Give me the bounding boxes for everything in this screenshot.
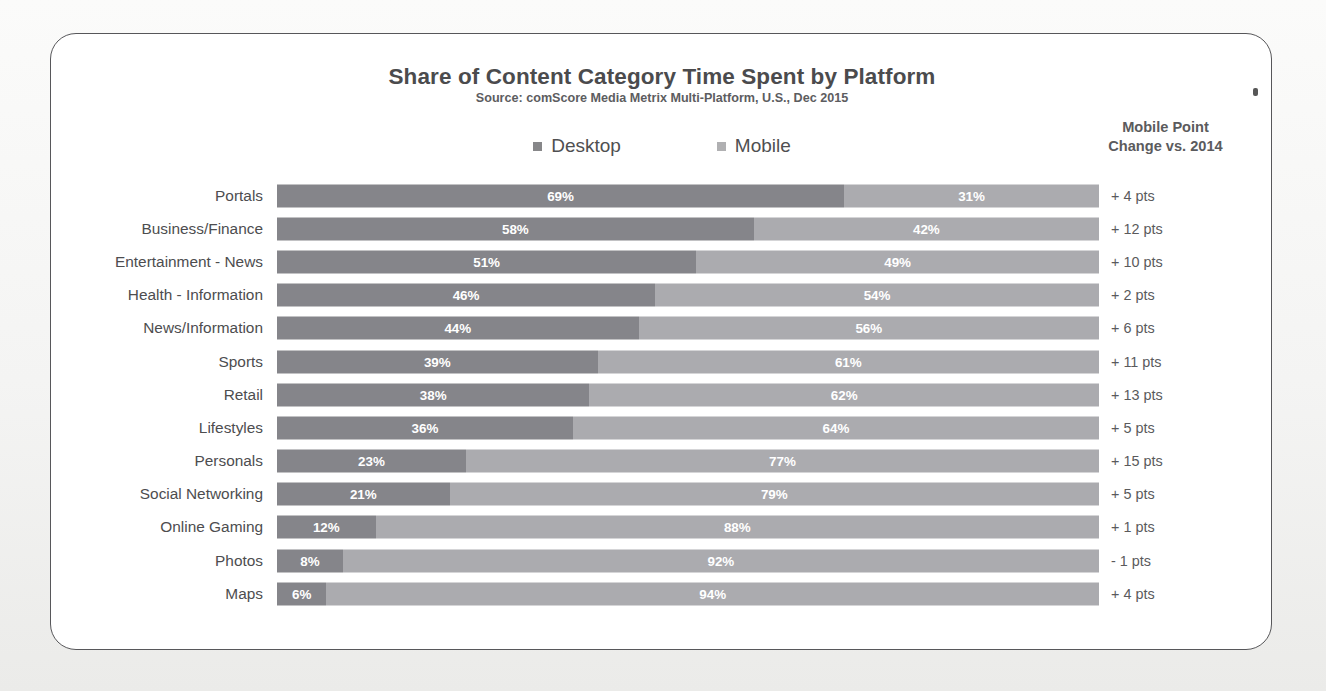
desktop-legend-swatch-icon bbox=[533, 142, 542, 151]
bar-value-label-desktop: 44% bbox=[444, 321, 471, 336]
chart-row: Portals69%31%+ 4 pts bbox=[51, 179, 1271, 212]
chart-card: Share of Content Category Time Spent by … bbox=[50, 33, 1272, 650]
bar-value-label-desktop: 46% bbox=[453, 288, 480, 303]
stacked-bar: 21%79% bbox=[277, 483, 1099, 506]
bar-segment-desktop: 69% bbox=[277, 184, 844, 207]
bar-segment-mobile: 49% bbox=[696, 250, 1099, 273]
category-label: Retail bbox=[51, 386, 263, 404]
page-title: Share of Content Category Time Spent by … bbox=[277, 64, 1047, 90]
stacked-bar: 46%54% bbox=[277, 284, 1099, 307]
mobile-point-change-value: + 12 pts bbox=[1111, 221, 1241, 237]
category-label: Health - Information bbox=[51, 286, 263, 304]
category-label: Business/Finance bbox=[51, 220, 263, 238]
mobile-point-change-value: + 2 pts bbox=[1111, 287, 1241, 303]
chart-row: Retail38%62%+ 13 pts bbox=[51, 378, 1271, 411]
bar-segment-desktop: 12% bbox=[277, 516, 376, 539]
category-label: Portals bbox=[51, 187, 263, 205]
bar-value-label-mobile: 54% bbox=[864, 288, 891, 303]
mobile-point-change-value: + 11 pts bbox=[1111, 354, 1241, 370]
bar-segment-desktop: 23% bbox=[277, 450, 466, 473]
bar-segment-desktop: 58% bbox=[277, 217, 754, 240]
bar-value-label-mobile: 94% bbox=[699, 586, 726, 601]
bar-value-label-mobile: 49% bbox=[884, 254, 911, 269]
chart-row: Photos8%92%- 1 pts bbox=[51, 544, 1271, 577]
category-label: Photos bbox=[51, 552, 263, 570]
stacked-bar: 38%62% bbox=[277, 383, 1099, 406]
legend-item-desktop[interactable]: Desktop bbox=[533, 135, 621, 157]
mobile-point-change-value: + 4 pts bbox=[1111, 188, 1241, 204]
bar-value-label-desktop: 39% bbox=[424, 354, 451, 369]
bar-segment-desktop: 8% bbox=[277, 549, 343, 572]
bar-segment-mobile: 62% bbox=[589, 383, 1099, 406]
mobile-point-change-value: + 5 pts bbox=[1111, 486, 1241, 502]
bar-value-label-desktop: 51% bbox=[473, 254, 500, 269]
bar-segment-desktop: 51% bbox=[277, 250, 696, 273]
bar-value-label-desktop: 69% bbox=[547, 188, 574, 203]
stacked-bar: 36%64% bbox=[277, 416, 1099, 439]
bar-segment-mobile: 61% bbox=[598, 350, 1099, 373]
category-label: Entertainment - News bbox=[51, 253, 263, 271]
legend-label-mobile: Mobile bbox=[735, 135, 791, 157]
mobile-point-change-value: + 4 pts bbox=[1111, 586, 1241, 602]
mobile-point-change-value: - 1 pts bbox=[1111, 553, 1241, 569]
bar-value-label-mobile: 56% bbox=[855, 321, 882, 336]
mobile-point-change-value: + 10 pts bbox=[1111, 254, 1241, 270]
stacked-bar: 12%88% bbox=[277, 516, 1099, 539]
bar-segment-desktop: 36% bbox=[277, 416, 573, 439]
chart-row: News/Information44%56%+ 6 pts bbox=[51, 312, 1271, 345]
annotation-header-line-1: Mobile Point bbox=[1073, 118, 1258, 137]
chart-row: Entertainment - News51%49%+ 10 pts bbox=[51, 245, 1271, 278]
bar-segment-desktop: 39% bbox=[277, 350, 598, 373]
category-label: Social Networking bbox=[51, 485, 263, 503]
bar-value-label-mobile: 62% bbox=[831, 387, 858, 402]
mobile-point-change-value: + 1 pts bbox=[1111, 519, 1241, 535]
chart-row: Lifestyles36%64%+ 5 pts bbox=[51, 411, 1271, 444]
category-label: Lifestyles bbox=[51, 419, 263, 437]
category-label: Sports bbox=[51, 353, 263, 371]
chart-plot-area: Portals69%31%+ 4 ptsBusiness/Finance58%4… bbox=[51, 179, 1271, 610]
bar-segment-mobile: 88% bbox=[376, 516, 1099, 539]
mobile-point-change-value: + 15 pts bbox=[1111, 453, 1241, 469]
bar-value-label-desktop: 6% bbox=[292, 586, 311, 601]
bar-segment-mobile: 92% bbox=[343, 549, 1099, 572]
stacked-bar: 8%92% bbox=[277, 549, 1099, 572]
chart-legend: Desktop Mobile bbox=[277, 135, 1047, 157]
bar-segment-mobile: 54% bbox=[655, 284, 1099, 307]
bar-segment-mobile: 31% bbox=[844, 184, 1099, 207]
legend-item-mobile[interactable]: Mobile bbox=[717, 135, 791, 157]
bar-segment-mobile: 94% bbox=[326, 582, 1099, 605]
bar-value-label-mobile: 61% bbox=[835, 354, 862, 369]
bar-value-label-desktop: 12% bbox=[313, 520, 340, 535]
bar-segment-mobile: 56% bbox=[639, 317, 1099, 340]
stacked-bar: 23%77% bbox=[277, 450, 1099, 473]
bar-value-label-desktop: 8% bbox=[300, 553, 319, 568]
stacked-bar: 6%94% bbox=[277, 582, 1099, 605]
chart-row: Online Gaming12%88%+ 1 pts bbox=[51, 511, 1271, 544]
bar-segment-mobile: 42% bbox=[754, 217, 1099, 240]
scan-artifact-speck bbox=[1253, 88, 1258, 96]
stacked-bar: 51%49% bbox=[277, 250, 1099, 273]
annotation-column-header: Mobile Point Change vs. 2014 bbox=[1073, 118, 1258, 156]
bar-value-label-mobile: 42% bbox=[913, 221, 940, 236]
bar-value-label-desktop: 21% bbox=[350, 487, 377, 502]
bar-segment-mobile: 77% bbox=[466, 450, 1099, 473]
annotation-header-line-2: Change vs. 2014 bbox=[1073, 137, 1258, 156]
category-label: Personals bbox=[51, 452, 263, 470]
chart-row: Business/Finance58%42%+ 12 pts bbox=[51, 212, 1271, 245]
mobile-legend-swatch-icon bbox=[717, 142, 726, 151]
bar-value-label-desktop: 38% bbox=[420, 387, 447, 402]
chart-row: Maps6%94%+ 4 pts bbox=[51, 577, 1271, 610]
category-label: Maps bbox=[51, 585, 263, 603]
stacked-bar: 44%56% bbox=[277, 317, 1099, 340]
bar-segment-desktop: 44% bbox=[277, 317, 639, 340]
stacked-bar: 58%42% bbox=[277, 217, 1099, 240]
category-label: News/Information bbox=[51, 319, 263, 337]
mobile-point-change-value: + 5 pts bbox=[1111, 420, 1241, 436]
bar-segment-mobile: 64% bbox=[573, 416, 1099, 439]
bar-value-label-mobile: 92% bbox=[707, 553, 734, 568]
stacked-bar: 39%61% bbox=[277, 350, 1099, 373]
bar-segment-desktop: 6% bbox=[277, 582, 326, 605]
chart-row: Social Networking21%79%+ 5 pts bbox=[51, 478, 1271, 511]
stacked-bar: 69%31% bbox=[277, 184, 1099, 207]
bar-value-label-mobile: 88% bbox=[724, 520, 751, 535]
